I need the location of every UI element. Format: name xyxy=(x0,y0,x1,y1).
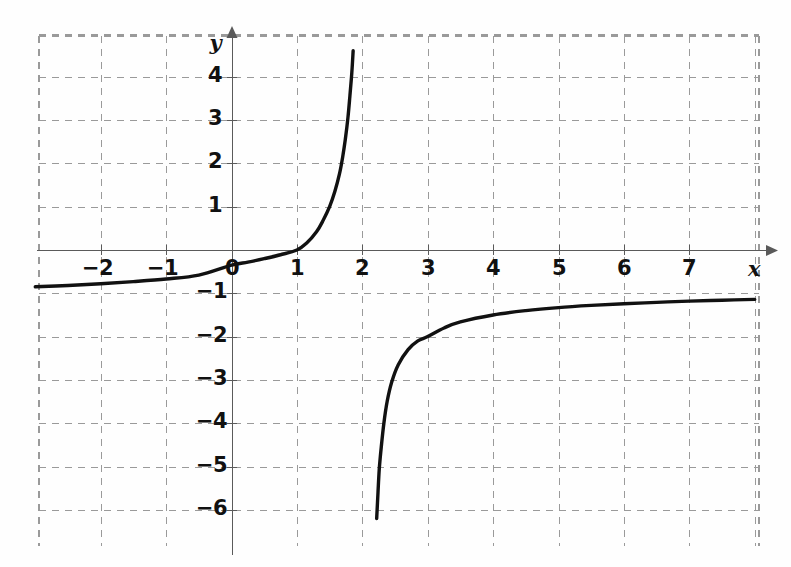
x-axis-label: x xyxy=(748,256,761,281)
x-tick-label-3: 3 xyxy=(421,256,435,280)
x-tick-label--2: −2 xyxy=(82,256,113,280)
x-tick-label-1: 1 xyxy=(290,256,304,280)
axis-lines xyxy=(37,26,779,555)
y-axis-arrowhead xyxy=(227,26,238,38)
x-axis-arrowhead xyxy=(766,245,778,256)
y-tick-label--3: −3 xyxy=(196,366,227,390)
x-tick-label-4: 4 xyxy=(486,256,500,280)
x-tick-label-0: 0 xyxy=(225,256,239,280)
x-tick-label-2: 2 xyxy=(355,256,369,280)
y-tick-label-3: 3 xyxy=(208,106,222,130)
y-tick-label-2: 2 xyxy=(208,149,222,173)
x-tick-label--1: −1 xyxy=(147,256,178,280)
curve-branch-right xyxy=(377,299,755,518)
x-tick-label-6: 6 xyxy=(617,256,631,280)
x-tick-label-5: 5 xyxy=(552,256,566,280)
y-tick-label--5: −5 xyxy=(196,453,227,477)
curve-branch-left xyxy=(35,51,353,287)
y-axis-label: y xyxy=(210,30,222,55)
y-tick-label--1: −1 xyxy=(196,279,227,303)
x-tick-label-7: 7 xyxy=(682,256,696,280)
graph-figure: −2−1012345674321−1−2−3−4−5−6 x y xyxy=(0,0,791,567)
y-tick-label--4: −4 xyxy=(196,409,227,433)
coordinate-plane xyxy=(0,0,791,567)
y-tick-label--2: −2 xyxy=(196,323,227,347)
vertical-gridlines xyxy=(39,36,759,546)
y-tick-label-1: 1 xyxy=(208,193,222,217)
y-tick-label--6: −6 xyxy=(196,496,227,520)
y-tick-label-4: 4 xyxy=(208,63,222,87)
